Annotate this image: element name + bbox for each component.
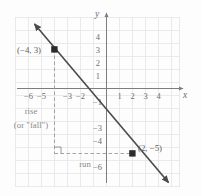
point-marker-a <box>51 46 57 52</box>
y-axis-label: y <box>94 9 100 19</box>
rise-label: rise <box>25 106 38 116</box>
x-axis-label: x <box>182 90 188 100</box>
y-tick-3: 3 <box>96 45 100 55</box>
x-tick-2: 2 <box>130 91 134 101</box>
x-tick-1: 1 <box>117 91 121 101</box>
x-tick--3: −3 <box>63 91 72 101</box>
graph-canvas: x y −6 −5 −3 −2 1 2 3 4 4 3 2 1 −1 −3 −4… <box>0 0 201 196</box>
right-angle-marker <box>55 147 62 154</box>
point-label-a: (−4, 3) <box>17 45 41 55</box>
x-tick--2: −2 <box>76 91 85 101</box>
point-label-b: (2, −5) <box>138 143 162 153</box>
x-tick-3: 3 <box>143 91 147 101</box>
x-tick--6: −6 <box>24 91 33 101</box>
run-label: run <box>79 159 91 169</box>
y-tick--6: −6 <box>93 162 102 172</box>
point-marker-b <box>129 150 135 156</box>
y-tick-4: 4 <box>96 32 101 42</box>
fall-label: (or "fall") <box>14 120 48 130</box>
y-tick--4: −4 <box>93 136 103 146</box>
x-tick--5: −5 <box>37 91 46 101</box>
coordinate-plane-figure: x y −6 −5 −3 −2 1 2 3 4 4 3 2 1 −1 −3 −4… <box>0 0 201 196</box>
y-tick-labels: 4 3 2 1 −1 −3 −4 −6 <box>93 32 103 172</box>
y-tick-1: 1 <box>96 71 100 81</box>
y-tick--3: −3 <box>93 123 102 133</box>
y-tick-2: 2 <box>96 58 100 68</box>
